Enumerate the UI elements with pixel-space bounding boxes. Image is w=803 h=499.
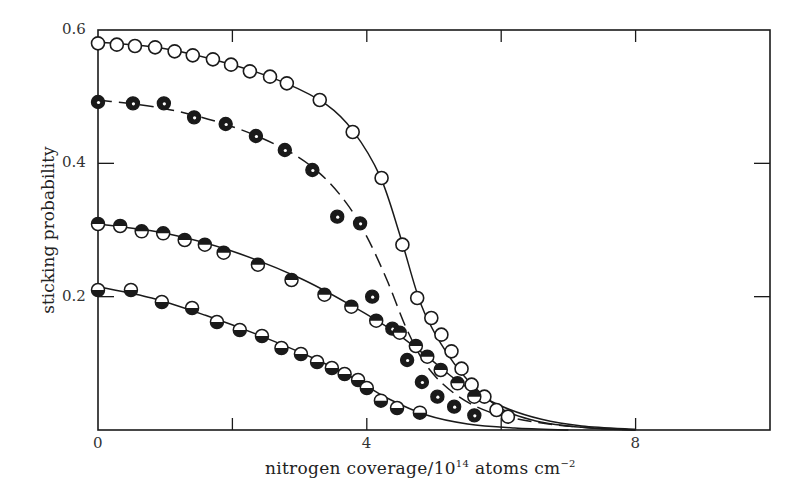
series-1-marker (110, 38, 123, 51)
y-axis-label: sticking probability (38, 146, 58, 313)
series-1-marker (243, 65, 256, 78)
series-1-marker (375, 172, 388, 185)
series-1-marker (92, 37, 105, 50)
plot-area (0, 0, 803, 499)
series-2-marker-highlight (371, 296, 374, 299)
x-axis-label-units-exp: −2 (560, 458, 575, 469)
series-2-marker-highlight (311, 169, 314, 172)
series-2-marker-highlight (193, 116, 196, 119)
series-2-marker-highlight (453, 406, 456, 409)
series-1-marker (346, 126, 359, 139)
series-1-marker (168, 45, 181, 58)
series-3-curve (98, 224, 636, 429)
y-tick-label: 0.4 (62, 153, 86, 171)
series-1-marker (149, 41, 162, 54)
series-2-curve (98, 100, 636, 430)
series-1-marker (225, 58, 238, 71)
series-1-marker (128, 40, 141, 53)
series-2-marker-highlight (255, 135, 258, 138)
series-2-marker-highlight (436, 396, 439, 399)
series-1-marker (206, 53, 219, 66)
x-axis-label-exp: 14 (456, 458, 469, 469)
series-1-marker (465, 378, 478, 391)
series-1-marker (435, 328, 448, 341)
x-axis-label: nitrogen coverage/1014 atoms cm−2 (265, 458, 576, 478)
x-tick-label: 0 (93, 434, 103, 452)
series-2-marker-highlight (132, 102, 135, 105)
y-tick-label: 0.2 (62, 287, 86, 305)
series-2-marker-highlight (473, 414, 476, 417)
x-axis-label-units: atoms cm (469, 458, 560, 478)
series-2-marker-highlight (284, 149, 287, 152)
series-1-marker (445, 345, 458, 358)
y-tick-label: 0.6 (62, 20, 86, 38)
chart: 0.60.40.2048 sticking probability nitrog… (0, 0, 803, 499)
series-1-marker (280, 77, 293, 90)
series-1-marker (313, 94, 326, 107)
x-axis-label-main: nitrogen coverage/10 (265, 458, 456, 478)
x-tick-label: 8 (631, 434, 641, 452)
series-1-marker (186, 49, 199, 62)
series-1-marker (396, 238, 409, 251)
series-1-marker (411, 292, 424, 305)
series-2-marker-highlight (406, 359, 409, 362)
series-2-marker-highlight (225, 123, 228, 126)
series-1-marker (425, 312, 438, 325)
series-1-marker (264, 70, 277, 83)
series-2-marker-highlight (421, 381, 424, 384)
series-2-marker-highlight (359, 222, 362, 225)
series-1-marker (501, 410, 514, 423)
series-2-marker-highlight (163, 102, 166, 105)
series-2-marker-highlight (97, 101, 100, 104)
series-1-marker (455, 362, 468, 375)
series-2-marker-highlight (336, 216, 339, 219)
x-tick-label: 4 (362, 434, 372, 452)
